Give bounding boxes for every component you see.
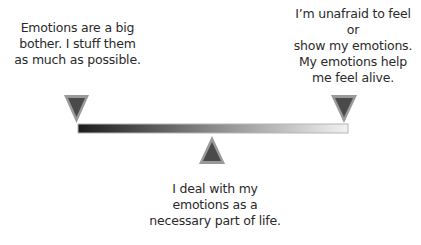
label-right-extreme: I’m unafraid to feel or show my emotions… [288, 6, 418, 86]
label-left-extreme: Emotions are a big bother. I stuff them … [0, 20, 155, 68]
marker-triangle-middle [199, 136, 225, 164]
label-middle-balance: I deal with my emotions as a necessary p… [140, 181, 290, 229]
marker-triangle-left [64, 95, 89, 123]
marker-triangle-right [331, 95, 357, 123]
scale-bar [78, 124, 348, 133]
